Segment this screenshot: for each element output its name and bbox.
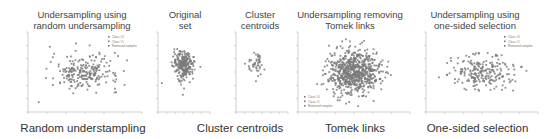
scatter-plot-original [152,30,210,118]
svg-text:Removed samples: Removed samples [112,44,137,48]
scatter-plot-tomek: Class #0Class #1Removed samples [292,30,410,118]
panel-4-title: Undersampling removingTomek links [285,9,415,31]
caption-random: Random understampling [20,122,146,134]
scatter-plot-onesided: Class #0Class #1Removed samples [420,30,538,118]
svg-text:Class #1: Class #1 [112,40,124,44]
caption-tomek: Tomek links [310,122,400,134]
svg-text:Class #0: Class #0 [112,35,124,39]
panel-1-title: Undersampling usingrandom undersampling [22,9,142,31]
caption-centroids: Cluster centroids [185,122,295,134]
svg-text:Removed samples: Removed samples [308,104,333,108]
caption-onesided: One-sided selection [420,122,535,134]
svg-text:Class #0: Class #0 [508,35,520,39]
svg-text:Class #1: Class #1 [308,100,320,104]
scatter-plot-centroids [230,30,288,118]
panel-5-title: Undersampling usingone-sided selection [415,9,535,31]
svg-text:Class #0: Class #0 [308,95,320,99]
svg-text:Class #1: Class #1 [508,40,520,44]
svg-text:Removed samples: Removed samples [508,44,533,48]
scatter-plot-random: Class #0Class #1Removed samples [22,30,142,118]
panel-2-title: Originalset [150,9,220,31]
